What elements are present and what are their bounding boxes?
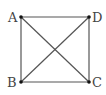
label-d: D <box>92 10 102 25</box>
point-c <box>87 80 91 84</box>
point-a <box>19 15 23 19</box>
point-b <box>19 80 23 84</box>
square-diagram: A D B C <box>0 0 106 95</box>
label-b: B <box>7 75 17 90</box>
point-d <box>87 15 91 19</box>
label-c: C <box>92 75 102 90</box>
segments <box>21 17 89 82</box>
label-a: A <box>7 10 18 25</box>
